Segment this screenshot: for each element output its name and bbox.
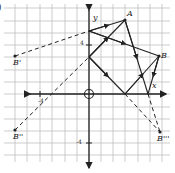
direction-arrow-icon [125,75,142,94]
tick-label-pos-y: 4 [80,40,84,46]
vertex-dot [123,18,126,21]
diagram-canvas [0,0,175,173]
tick-label-neg-y: -4 [76,139,82,145]
vertex-points [13,18,161,133]
x-axis-label: x [152,82,157,90]
direction-arrow-icon [89,26,107,32]
point-label-b: B [161,52,167,60]
y-axis-label: y [93,14,98,22]
point-label-b-triple-prime: B''' [157,135,169,143]
coordinate-diagram: ) y x 4 -4 -4 A B B' B'' B''' [0,0,175,173]
dashed-segment [125,94,160,132]
direction-arrow-icon [125,20,137,57]
figure-corner-label: ) [0,2,2,12]
point-label-b-double-prime: B'' [13,133,23,141]
direction-arrow-icon [89,39,107,58]
point-label-a: A [127,10,133,18]
direction-arrow-icon [89,57,107,76]
point-label-b-prime: B' [13,59,21,67]
tick-label-neg-x: -4 [38,98,44,104]
